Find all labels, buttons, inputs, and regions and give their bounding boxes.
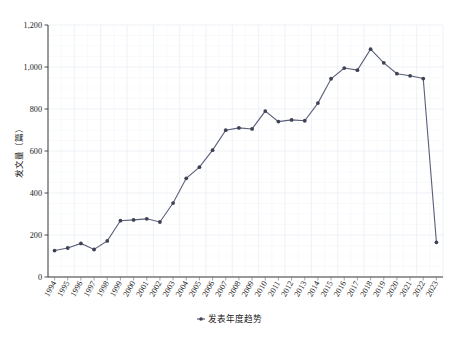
x-tick-label: 2012	[279, 280, 295, 299]
x-tick-label: 2001	[135, 280, 151, 299]
x-tick-label: 2007	[214, 280, 230, 299]
y-tick-label: 200	[30, 231, 42, 240]
x-tick-label: 2021	[398, 280, 414, 299]
data-point-marker	[369, 47, 373, 51]
data-point-marker	[421, 77, 425, 81]
data-point-marker	[171, 201, 175, 205]
y-tick-label: 1,200	[24, 21, 42, 30]
x-tick-label: 2010	[253, 280, 269, 299]
data-point-marker	[211, 148, 215, 152]
data-point-marker	[79, 242, 83, 246]
data-point-marker	[329, 77, 333, 81]
chart-legend[interactable]: 发表年度趋势	[197, 313, 262, 324]
x-axis-tick-labels: 1994199519961997199819992000200120022003…	[42, 280, 440, 299]
data-point-marker	[224, 128, 228, 132]
y-axis-ticks	[45, 25, 49, 277]
data-point-marker	[158, 220, 162, 224]
x-tick-label: 2002	[148, 280, 164, 299]
x-tick-label: 1999	[108, 280, 124, 299]
x-tick-label: 1996	[69, 280, 85, 299]
x-tick-label: 2003	[161, 280, 177, 299]
x-tick-label: 2016	[332, 280, 348, 299]
y-tick-label: 800	[30, 105, 42, 114]
x-tick-label: 2023	[424, 280, 440, 299]
x-tick-label: 2000	[121, 280, 137, 299]
data-point-marker	[290, 118, 294, 122]
x-tick-label: 2011	[266, 280, 282, 298]
data-point-marker	[119, 219, 123, 223]
data-point-marker	[395, 72, 399, 76]
x-tick-label: 2022	[411, 280, 427, 299]
x-tick-label: 2018	[358, 280, 374, 299]
data-point-marker	[316, 101, 320, 105]
data-point-marker	[237, 126, 241, 130]
y-tick-label: 400	[30, 189, 42, 198]
y-axis-title: 发文量（篇）	[14, 124, 24, 178]
data-point-marker	[382, 61, 386, 65]
data-point-marker	[53, 249, 57, 253]
data-point-marker	[277, 120, 281, 124]
data-point-marker	[198, 165, 202, 169]
x-tick-label: 1997	[82, 280, 98, 299]
x-tick-label: 2017	[345, 280, 361, 299]
x-tick-label: 2005	[187, 280, 203, 299]
data-point-marker	[66, 246, 70, 250]
x-tick-label: 2013	[293, 280, 309, 299]
data-point-marker	[105, 239, 109, 243]
x-tick-label: 2019	[372, 280, 388, 299]
x-tick-label: 1995	[56, 280, 72, 299]
data-point-marker	[263, 109, 267, 113]
data-point-marker	[184, 176, 188, 180]
x-tick-label: 2020	[385, 280, 401, 299]
x-tick-label: 1998	[95, 280, 111, 299]
x-tick-label: 2014	[306, 280, 322, 299]
x-tick-label: 2008	[227, 280, 243, 299]
data-point-marker	[132, 218, 136, 222]
x-tick-label: 2006	[200, 280, 216, 299]
x-tick-label: 2004	[174, 280, 190, 299]
y-tick-label: 600	[30, 147, 42, 156]
x-tick-label: 2015	[319, 280, 335, 299]
legend-label: 发表年度趋势	[208, 313, 262, 324]
y-tick-label: 0	[38, 273, 42, 282]
x-tick-label: 2009	[240, 280, 256, 299]
chart-container: 02004006008001,0001,200 1994199519961997…	[0, 0, 466, 338]
data-point-marker	[145, 217, 149, 221]
legend-dot-marker	[199, 317, 203, 321]
line-chart: 02004006008001,0001,200 1994199519961997…	[0, 0, 466, 338]
data-point-marker	[356, 68, 360, 72]
data-point-marker	[435, 240, 439, 244]
x-tick-label: 1994	[42, 280, 58, 299]
data-point-marker	[250, 127, 254, 131]
data-point-marker	[303, 119, 307, 123]
y-tick-label: 1,000	[24, 63, 42, 72]
data-point-marker	[408, 74, 412, 78]
data-point-marker	[342, 66, 346, 70]
data-point-marker	[92, 248, 96, 252]
y-axis-tick-labels: 02004006008001,0001,200	[24, 21, 42, 282]
